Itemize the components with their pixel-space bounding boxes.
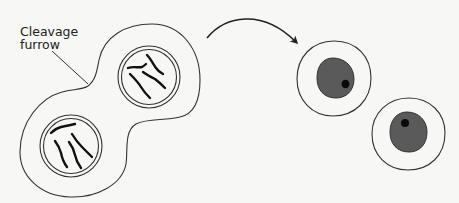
cleavage-furrow-label: Cleavage furrow: [20, 24, 88, 84]
chromosome: [128, 64, 146, 68]
cytokinesis-diagram: Cleavage furrow: [0, 0, 459, 203]
lower-nucleus: [40, 115, 102, 177]
nucleolus: [401, 119, 409, 127]
nucleolus: [342, 80, 350, 89]
leader-line: [52, 51, 88, 84]
daughter-cell-2: [372, 98, 445, 170]
chromosome: [147, 55, 163, 74]
progression-arrow-icon: [207, 19, 296, 42]
chromosome: [69, 142, 81, 168]
chromosome: [55, 141, 67, 167]
chromosome: [130, 74, 150, 98]
chromosome: [51, 124, 75, 133]
label-line-2: furrow: [20, 37, 60, 52]
nucleus: [317, 58, 354, 98]
daughter-cell-1: [297, 41, 371, 116]
nucleus: [390, 112, 427, 152]
upper-nucleus: [118, 46, 180, 108]
